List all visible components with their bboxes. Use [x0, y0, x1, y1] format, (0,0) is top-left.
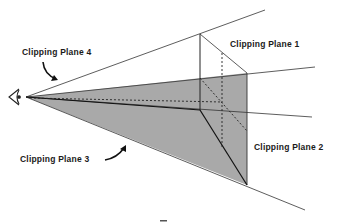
caption-fragment — [160, 220, 167, 222]
curved-arrow-icon — [43, 62, 58, 81]
label-clipping-plane-1: Clipping Plane 1 — [230, 39, 299, 49]
curved-arrow-icon — [105, 145, 126, 160]
frustum-diagram — [0, 0, 340, 224]
shaded-view-volume — [26, 73, 247, 185]
label-clipping-plane-3: Clipping Plane 3 — [20, 154, 89, 164]
label-clipping-plane-4: Clipping Plane 4 — [22, 47, 91, 57]
label-clipping-plane-2: Clipping Plane 2 — [254, 142, 323, 152]
eye-icon — [9, 89, 20, 105]
